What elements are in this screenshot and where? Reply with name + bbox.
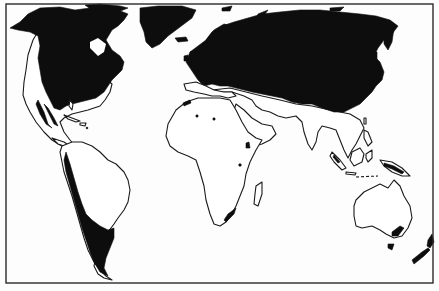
taiwan [364, 118, 366, 124]
ethiopian-highlands [246, 142, 250, 148]
iceland [175, 37, 188, 42]
world-map [0, 0, 439, 291]
new-zealand-south-island [412, 248, 430, 264]
sakhalin [374, 52, 377, 62]
madagascar [254, 182, 262, 206]
north-america [10, 4, 128, 160]
siberian-islands [330, 7, 344, 11]
eurasia-shaded [186, 10, 398, 112]
ireland [184, 55, 188, 61]
caribbean-dot [86, 127, 88, 129]
lesser-sunda [356, 176, 378, 177]
new-zealand [412, 234, 434, 264]
greenland [140, 6, 196, 48]
cuba [64, 115, 80, 122]
map-canvas [0, 0, 439, 291]
philippines [364, 130, 372, 146]
hispaniola [80, 123, 86, 126]
ahaggar-dot [196, 115, 198, 117]
south-america [60, 142, 130, 280]
tibesti-dot [213, 118, 215, 120]
australia [354, 180, 412, 250]
java [346, 172, 356, 175]
sulawesi [366, 150, 372, 162]
tasmania [388, 244, 394, 250]
caribbean [64, 115, 88, 129]
kamchatka [384, 28, 394, 50]
east-africa-dot [239, 164, 242, 167]
svalbard [222, 6, 232, 11]
